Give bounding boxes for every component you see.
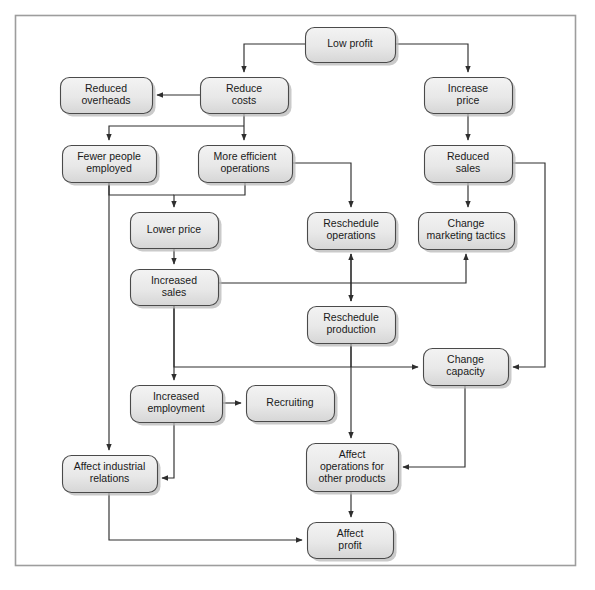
node-recruiting[interactable] [247,386,338,425]
flow-diagram: Low profitReducecostsReducedoverheadsInc… [0,0,595,590]
node-box[interactable] [199,146,293,183]
node-reschedule-prod[interactable] [308,307,399,347]
node-box[interactable] [201,78,289,114]
node-box[interactable] [131,213,219,249]
node-affect-profit[interactable] [308,523,397,562]
node-box[interactable] [424,349,509,386]
node-more-efficient[interactable] [199,146,296,186]
node-box[interactable] [419,213,515,250]
node-fewer-people[interactable] [63,146,160,186]
node-affect-operations[interactable] [307,444,402,495]
node-reduced-overheads[interactable] [61,78,156,117]
node-increase-price[interactable] [425,78,516,117]
node-box[interactable] [61,78,153,114]
node-box[interactable] [308,213,396,250]
figure-root: Low profitReducecostsReducedoverheadsInc… [0,0,595,590]
node-box[interactable] [425,78,513,114]
node-affect-industrial[interactable] [63,456,161,496]
node-reduced-sales[interactable] [425,146,516,186]
node-low-profit[interactable] [306,28,399,66]
node-box[interactable] [247,386,335,422]
node-box[interactable] [308,523,394,559]
node-increased-sales[interactable] [131,270,222,309]
node-change-marketing[interactable] [419,213,518,253]
node-change-capacity[interactable] [424,349,512,389]
node-reduce-costs[interactable] [201,78,292,117]
node-lower-price[interactable] [131,213,222,252]
node-box[interactable] [307,444,399,492]
node-box[interactable] [131,386,223,423]
node-reschedule-ops[interactable] [308,213,399,253]
node-box[interactable] [63,456,158,493]
node-box[interactable] [308,307,396,344]
node-box[interactable] [425,146,513,183]
node-box[interactable] [306,28,396,63]
node-box[interactable] [131,270,219,306]
node-box[interactable] [63,146,157,183]
node-increased-employ[interactable] [131,386,226,426]
